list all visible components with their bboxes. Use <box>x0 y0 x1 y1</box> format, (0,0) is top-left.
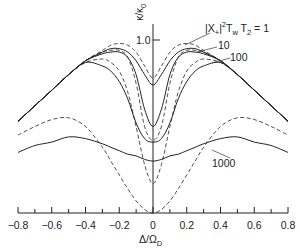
x-tick-label: 0.2 <box>179 219 194 231</box>
x-tick-label: −0.6 <box>41 219 62 231</box>
annotation-100: 100 <box>230 52 248 63</box>
x-axis-label-sub: D <box>157 239 162 248</box>
x-axis-label-main: Δ/Ω <box>139 233 157 245</box>
y-axis-label-main: κ/κ <box>134 8 145 21</box>
y-axis-label: κ/κ0 <box>135 4 148 21</box>
leader-line-10 <box>197 47 217 52</box>
x-axis-label: Δ/ΩD <box>139 234 162 248</box>
x-tick-label: −0.2 <box>109 219 130 231</box>
annotation-1: |X+|2Tw T2 = 1 <box>205 21 269 36</box>
x-tick-label: 0.4 <box>213 219 228 231</box>
ann1-main: |X <box>205 22 215 34</box>
y-tick-label: 1.0 <box>136 35 151 46</box>
x-tick-label: −0.8 <box>8 219 29 231</box>
x-tick-label: −0.4 <box>75 219 96 231</box>
ann1-end: = 1 <box>251 22 269 34</box>
x-tick-label: 0 <box>150 219 156 231</box>
x-ticks <box>18 207 288 213</box>
annotation-1000: 1000 <box>212 158 235 169</box>
x-tick-label: 0.8 <box>281 219 296 231</box>
annotation-10: 10 <box>218 40 230 51</box>
y-axis-label-sub: 0 <box>139 4 148 8</box>
ann1-t2: T <box>238 22 247 34</box>
x-tick-label: 0.6 <box>247 219 262 231</box>
